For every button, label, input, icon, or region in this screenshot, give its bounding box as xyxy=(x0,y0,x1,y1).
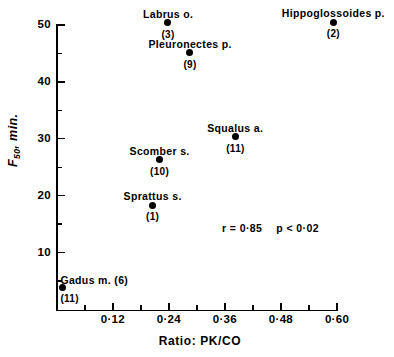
y-axis-ticklabel: 40 xyxy=(25,76,51,88)
data-point-marker xyxy=(330,19,337,26)
y-axis-tick-major xyxy=(58,138,65,139)
data-point-label: Hippoglossoides p. xyxy=(282,8,385,19)
y-axis-tick-minor xyxy=(58,167,63,168)
x-axis-tick-minor xyxy=(84,305,85,310)
data-point-label: Labrus o. xyxy=(143,9,193,20)
scatter-plot-figure: F50, min. Ratio: PK/CO r = 0·85p < 0·02 … xyxy=(0,0,394,357)
y-axis-ticklabel: 50 xyxy=(25,19,51,31)
data-point-label: Pleuronectes p. xyxy=(148,39,231,50)
r-value-text: r = 0·85 xyxy=(222,222,262,234)
y-axis-tick-major xyxy=(58,81,65,82)
y-axis-title-subscript: 50 xyxy=(12,149,22,159)
x-axis-tick-major xyxy=(168,303,169,310)
y-axis-title-base: F xyxy=(6,159,20,167)
x-axis-ticklabel: 0·12 xyxy=(83,314,143,326)
y-axis-tick-minor xyxy=(58,223,63,224)
data-point-label: Gadus m. (6) xyxy=(60,275,128,286)
x-axis-line xyxy=(56,310,338,312)
p-value-text: p < 0·02 xyxy=(276,222,319,234)
y-axis-tick-major xyxy=(58,252,65,253)
x-axis-ticklabel: 0·36 xyxy=(195,314,255,326)
y-axis-title: F50, min. xyxy=(6,100,23,180)
x-axis-tick-minor xyxy=(308,305,309,310)
y-axis-title-rest: , min. xyxy=(6,114,20,149)
correlation-annotation: r = 0·85p < 0·02 xyxy=(222,222,319,234)
y-axis-ticklabel: 20 xyxy=(25,190,51,202)
data-point-marker xyxy=(149,202,156,209)
data-point-label: Scomber s. xyxy=(130,146,190,157)
y-axis-tick-major xyxy=(58,195,65,196)
data-point-marker xyxy=(232,133,239,140)
y-axis-tick-minor xyxy=(58,110,63,111)
data-point-count: (2) xyxy=(327,29,340,39)
data-point-label: Sprattus s. xyxy=(124,191,182,202)
y-axis-tick-major xyxy=(58,24,65,25)
x-axis-tick-minor xyxy=(140,305,141,310)
x-axis-tick-minor xyxy=(196,305,197,310)
x-axis-ticklabel: 0·48 xyxy=(251,314,311,326)
x-axis-ticklabel: 0·60 xyxy=(307,314,367,326)
x-axis-tick-major xyxy=(280,303,281,310)
y-axis-ticklabel: 10 xyxy=(25,247,51,259)
data-point-label: Squalus a. xyxy=(207,123,263,134)
data-point-marker xyxy=(156,156,163,163)
x-axis-tick-major xyxy=(224,303,225,310)
x-axis-tick-major xyxy=(336,303,337,310)
data-point-count: (10) xyxy=(150,167,169,177)
x-axis-tick-major xyxy=(112,303,113,310)
data-point-count: (1) xyxy=(146,212,159,222)
x-axis-title: Ratio: PK/CO xyxy=(120,334,280,348)
y-axis-tick-minor xyxy=(58,53,63,54)
data-point-count: (11) xyxy=(226,144,244,154)
data-point-count: (11) xyxy=(60,294,78,304)
data-point-count: (9) xyxy=(183,60,196,70)
data-point-marker xyxy=(186,49,193,56)
y-axis-ticklabel: 30 xyxy=(25,133,51,145)
x-axis-tick-minor xyxy=(252,305,253,310)
data-point-marker xyxy=(164,19,171,26)
x-axis-ticklabel: 0·24 xyxy=(139,314,199,326)
